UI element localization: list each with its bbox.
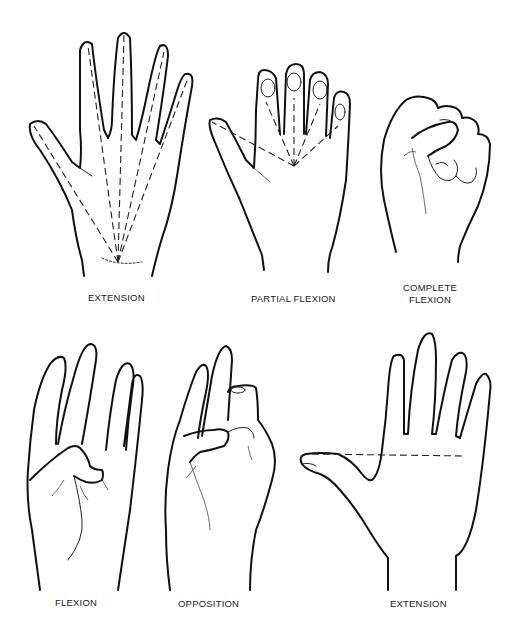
label-opposition: OPPOSITION xyxy=(178,598,239,610)
label-complete-flexion-line1: COMPLETE xyxy=(400,282,460,294)
extension-hand-drawing xyxy=(30,33,193,276)
label-extension-bottom: EXTENSION xyxy=(390,598,447,610)
complete-flexion-hand-drawing xyxy=(381,96,490,262)
extension-bottom-hand-drawing xyxy=(301,333,491,590)
label-flexion: FLEXION xyxy=(55,597,97,609)
label-partial-flexion: PARTIAL FLEXION xyxy=(251,293,336,305)
hand-positions-illustration xyxy=(0,0,515,634)
partial-flexion-hand-drawing xyxy=(210,64,351,272)
opposition-hand-drawing xyxy=(165,346,275,590)
label-complete-flexion: COMPLETE FLEXION xyxy=(400,282,460,306)
label-extension-top: EXTENSION xyxy=(88,292,145,304)
flexion-hand-drawing xyxy=(28,344,143,590)
label-complete-flexion-line2: FLEXION xyxy=(400,294,460,306)
